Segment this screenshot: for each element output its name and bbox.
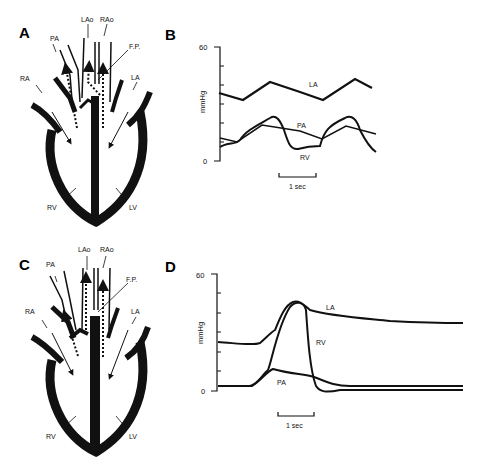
label-fp-c: F.P. [126, 276, 137, 283]
label-rv: RV [47, 204, 57, 211]
figure-canvas: PA LAo RAo F.P. RA LA RV LV PA LAo RAo [0, 0, 484, 465]
b-label-rv: RV [300, 154, 310, 161]
chart-b [214, 47, 376, 177]
d-ylabel: mmHg [196, 322, 205, 344]
b-ytick-60: 60 [199, 43, 207, 52]
series-pa [218, 369, 463, 386]
label-ra: RA [20, 75, 30, 82]
heart-diagram-a [32, 24, 150, 222]
b-ylabel: mmHg [198, 91, 207, 113]
series-la [219, 79, 372, 100]
label-lv: LV [129, 204, 137, 211]
b-ytick-0: 0 [203, 157, 207, 166]
d-label-pa: PA [277, 379, 286, 386]
label-lv-c: LV [129, 433, 137, 440]
label-rao-c: RAo [100, 246, 114, 253]
label-fp: F.P. [129, 43, 140, 50]
label-rao: RAo [100, 16, 114, 23]
d-label-la: LA [326, 304, 335, 311]
label-la: LA [131, 74, 140, 81]
label-ra-c: RA [25, 308, 35, 315]
d-label-rv: RV [316, 339, 326, 346]
y-axis [211, 274, 217, 391]
heart-diagram-c [32, 256, 148, 452]
b-scale-label: 1 sec [289, 183, 306, 190]
d-ytick-0: 0 [201, 387, 205, 396]
series-la [218, 302, 463, 345]
label-lao-c: LAo [78, 246, 91, 253]
label-pa-c: PA [46, 261, 55, 268]
b-label-pa: PA [297, 122, 306, 129]
d-ytick-60: 60 [196, 271, 204, 280]
b-label-la: LA [309, 81, 318, 88]
y-axis [214, 47, 220, 161]
chart-d [211, 274, 463, 416]
label-la-c: LA [131, 308, 140, 315]
scale-bar [278, 412, 314, 416]
label-rv-c: RV [46, 433, 56, 440]
d-scale-label: 1 sec [286, 422, 303, 429]
label-lao: LAo [81, 16, 94, 23]
label-pa: PA [50, 35, 59, 42]
scale-bar [279, 173, 316, 177]
